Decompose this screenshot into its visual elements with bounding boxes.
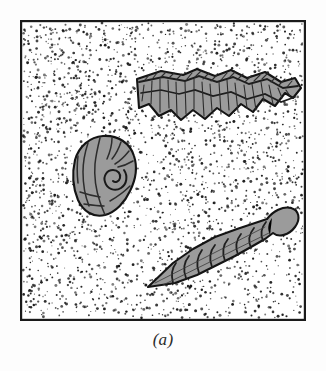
figure-caption: (a) — [0, 330, 326, 350]
figure-root: (a) — [0, 0, 326, 371]
figure-panel — [20, 20, 306, 321]
panel-illustration — [20, 20, 306, 321]
